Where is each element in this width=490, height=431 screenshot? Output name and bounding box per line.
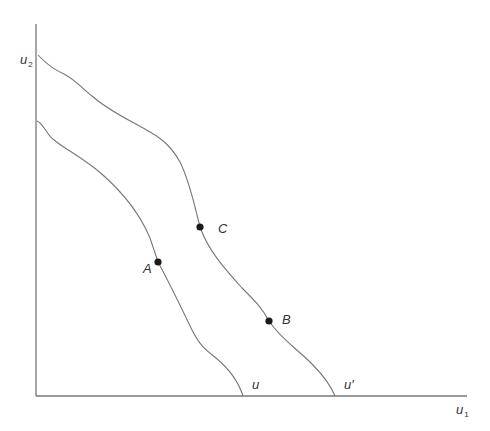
y-axis-label: u2 [20,53,33,69]
point-b-label: B [282,313,291,326]
y-axis-label-base: u [20,52,27,67]
curve-u [37,121,243,396]
point-c-label: C [218,222,227,235]
curve-u-label: u [252,378,259,391]
point-a-marker [154,258,161,265]
point-c-marker [196,223,203,230]
x-axis-label-subscript: 1 [464,410,468,419]
diagram-canvas [0,0,490,431]
point-b-marker [265,317,272,324]
curve-u-prime [38,55,335,396]
x-axis-label: u1 [456,403,469,419]
curve-u-prime-label: u′ [344,378,354,391]
y-axis-label-subscript: 2 [28,60,32,69]
point-a-label: A [143,262,152,275]
x-axis-label-base: u [456,402,463,417]
